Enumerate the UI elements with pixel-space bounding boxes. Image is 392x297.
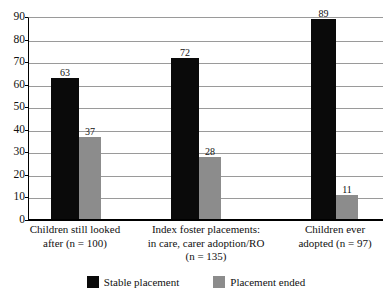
- y-tick-label-40: 40: [1, 124, 25, 135]
- bar-stable-group3: [311, 19, 336, 220]
- category-label-group1-line2: after (n = 100): [10, 237, 140, 251]
- category-label-group3-line2: adopted (n = 97): [281, 237, 389, 251]
- y-axis: 90 80 70 60 50 40 30 20 10 0: [0, 17, 25, 220]
- y-tick-label-60: 60: [1, 79, 25, 90]
- x-axis-line: [28, 219, 383, 221]
- y-tick-label-50: 50: [1, 101, 25, 112]
- bar-ended-group1: [79, 137, 101, 221]
- bar-value-stable-group3: 89: [311, 9, 336, 19]
- legend-item-placement-ended: Placement ended: [213, 276, 305, 288]
- clipped-caption-text: [8, 0, 384, 4]
- category-label-group2: Index foster placements: in care, carer …: [126, 223, 286, 264]
- legend-label-stable: Stable placement: [104, 276, 179, 288]
- bar-stable-group1: [51, 78, 79, 220]
- legend-label-ended: Placement ended: [230, 276, 305, 288]
- category-label-group2-line2: in care, carer adoption/RO: [126, 237, 286, 251]
- bar-value-stable-group1: 63: [51, 68, 79, 78]
- x-axis-category-labels: Children still looked after (n = 100) In…: [0, 223, 392, 271]
- legend-item-stable-placement: Stable placement: [87, 276, 179, 288]
- y-tick-label-80: 80: [1, 34, 25, 45]
- y-tick-label-10: 10: [1, 191, 25, 202]
- bar-ended-group2: [199, 157, 221, 220]
- category-label-group2-line1: Index foster placements:: [126, 223, 286, 237]
- chart-legend: Stable placement Placement ended: [0, 276, 392, 292]
- bar-value-ended-group1: 37: [79, 127, 101, 137]
- category-label-group3: Children ever adopted (n = 97): [281, 223, 389, 250]
- bar-value-ended-group2: 28: [199, 147, 221, 157]
- bar-value-stable-group2: 72: [171, 48, 199, 58]
- category-label-group1: Children still looked after (n = 100): [10, 223, 140, 250]
- legend-swatch-icon-stable: [87, 276, 99, 288]
- bar-stable-group2: [171, 58, 199, 220]
- category-label-group1-line1: Children still looked: [10, 223, 140, 237]
- bar-chart: 90 80 70 60 50 40 30 20 10 0 63 37: [0, 0, 392, 297]
- plot-area: 63 37 72 28 89 11: [28, 17, 383, 220]
- bar-value-ended-group3: 11: [336, 185, 358, 195]
- category-label-group3-line1: Children ever: [281, 223, 389, 237]
- bar-ended-group3: [336, 195, 358, 220]
- y-tick-label-30: 30: [1, 146, 25, 157]
- y-tick-label-70: 70: [1, 56, 25, 67]
- category-label-group2-line3: (n = 135): [126, 250, 286, 264]
- y-tick-label-90: 90: [1, 11, 25, 22]
- legend-swatch-icon-ended: [213, 276, 225, 288]
- y-tick-label-20: 20: [1, 169, 25, 180]
